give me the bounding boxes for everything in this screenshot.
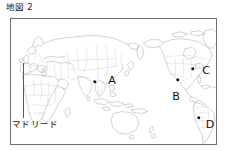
map-frame	[10, 18, 217, 145]
figure-title: 地図 2	[6, 2, 33, 13]
map-figure: 地図 2	[0, 0, 226, 151]
world-map-graphic	[11, 19, 216, 144]
